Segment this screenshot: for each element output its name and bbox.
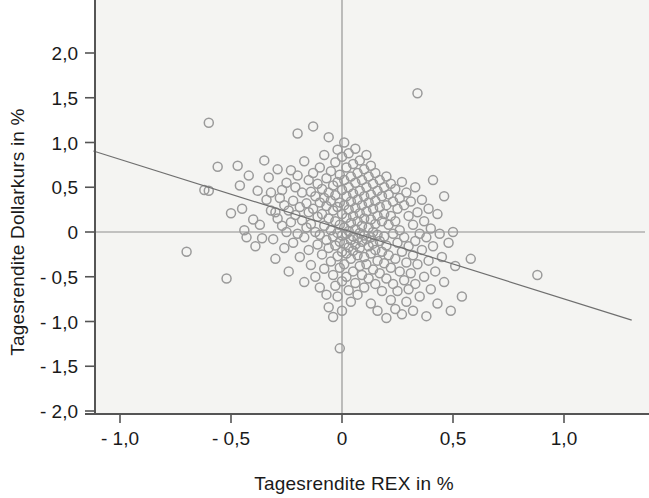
x-axis-ticks: - 1,0- 0,500,51,0: [101, 414, 577, 449]
x-axis-label: Tagesrendite REX in %: [254, 473, 454, 494]
y-tick-label: 2,0: [52, 43, 78, 64]
plot-area-rect: [95, 0, 649, 414]
y-tick-label: - 2,0: [40, 401, 78, 422]
y-axis-ticks: 2,01,51,00,50- 0,5- 1,0- 1,5- 2,0: [40, 43, 95, 422]
y-tick-label: 0,5: [52, 177, 78, 198]
x-tick-label: - 0,5: [212, 428, 250, 449]
x-tick-label: 0: [337, 428, 348, 449]
x-tick-label: 1,0: [551, 428, 577, 449]
scatter-plot-figure: - 1,0- 0,500,51,0 2,01,51,00,50- 0,5- 1,…: [0, 0, 649, 498]
y-tick-label: 1,0: [52, 133, 78, 154]
x-tick-label: 0,5: [440, 428, 466, 449]
y-tick-label: - 1,5: [40, 356, 78, 377]
plot-background: [95, 0, 649, 414]
plot-canvas: - 1,0- 0,500,51,0 2,01,51,00,50- 0,5- 1,…: [0, 0, 649, 498]
y-tick-label: - 0,5: [40, 267, 78, 288]
y-tick-label: - 1,0: [40, 312, 78, 333]
x-tick-label: - 1,0: [101, 428, 139, 449]
y-tick-label: 0: [67, 222, 78, 243]
y-tick-label: 1,5: [52, 88, 78, 109]
y-axis-label: Tagesrendite Dollarkurs in %: [7, 108, 28, 355]
